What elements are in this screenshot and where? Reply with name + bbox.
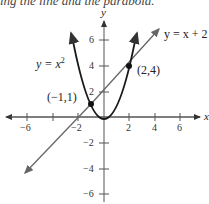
x-axis-label: x	[204, 110, 209, 122]
x-tick-4: 4	[152, 122, 157, 133]
y-tick-2: 2	[89, 86, 94, 97]
y-tick-6: 6	[89, 34, 94, 45]
point-neg1-1	[88, 101, 94, 107]
x-tick-neg2: −2	[71, 122, 82, 133]
x-tick-2: 2	[126, 122, 131, 133]
y-tick-neg6: −6	[83, 188, 94, 199]
y-tick-neg2: −2	[83, 137, 94, 148]
y-tick-4: 4	[89, 60, 94, 71]
x-tick-6: 6	[177, 122, 182, 133]
line-label: y = x + 2	[164, 27, 208, 42]
point-2-4	[126, 63, 132, 69]
y-tick-neg4: −4	[83, 163, 94, 174]
parabola-label: y = x2	[36, 56, 65, 72]
point1-label: (−1,1)	[47, 90, 77, 105]
point2-label: (2,4)	[137, 63, 160, 78]
x-tick-neg6: −6	[20, 122, 31, 133]
y-axis-label: y	[101, 6, 106, 18]
